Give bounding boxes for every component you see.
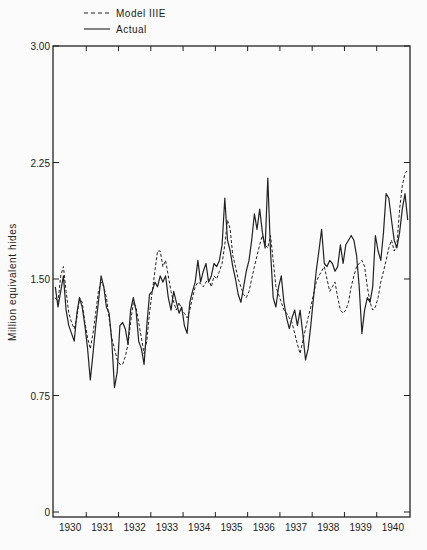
plot-frame — [53, 46, 410, 517]
x-tick-label: 1938 — [317, 522, 340, 533]
x-tick-label: 1931 — [91, 522, 114, 533]
legend: Model IIIE Actual — [84, 8, 166, 35]
y-tick-label: 2.25 — [31, 158, 51, 169]
y-tick-label: 3.00 — [31, 41, 51, 52]
x-tick-label: 1935 — [220, 522, 243, 533]
y-axis-ticks: 00.751.502.253.00 — [31, 41, 410, 518]
y-tick-label: 1.50 — [31, 274, 51, 285]
chart: Model IIIE Actual Million equivalent hid… — [0, 0, 427, 550]
x-tick-label: 1934 — [188, 522, 211, 533]
series-group — [55, 170, 407, 387]
series-line-model — [55, 170, 407, 364]
legend-label-model: Model IIIE — [116, 8, 166, 19]
x-tick-label: 1936 — [253, 522, 276, 533]
y-tick-label: 0.75 — [31, 391, 51, 402]
y-tick-label: 0 — [44, 507, 50, 518]
y-axis-title: Million equivalent hides — [7, 223, 18, 341]
x-tick-label: 1930 — [59, 522, 82, 533]
legend-label-actual: Actual — [116, 24, 147, 35]
series-line-actual — [55, 178, 407, 388]
x-axis-ticks: 1930193119321933193419351936193719381939… — [59, 46, 404, 533]
x-tick-label: 1940 — [382, 522, 405, 533]
x-tick-label: 1933 — [156, 522, 179, 533]
x-tick-label: 1937 — [285, 522, 308, 533]
x-tick-label: 1932 — [124, 522, 147, 533]
x-tick-label: 1939 — [349, 522, 372, 533]
